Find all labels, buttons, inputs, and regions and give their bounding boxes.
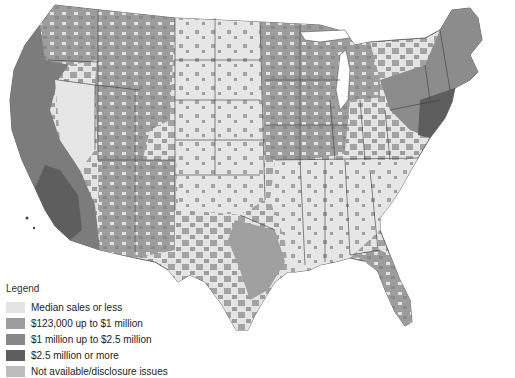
legend-swatch xyxy=(6,350,25,361)
island-marker xyxy=(33,227,35,229)
island-marker xyxy=(26,217,29,220)
legend-label: Not available/disclosure issues xyxy=(31,366,168,377)
legend-swatch xyxy=(6,366,25,377)
legend-swatch xyxy=(6,302,25,313)
region-southwest xyxy=(98,160,175,258)
legend-item: $123,000 up to $1 million xyxy=(6,315,206,331)
legend-item: $1 million up to $2.5 million xyxy=(6,331,206,347)
legend-swatch xyxy=(6,318,25,329)
legend-label: Median sales or less xyxy=(31,302,122,313)
region-plains xyxy=(175,18,265,215)
legend-swatch xyxy=(6,334,25,345)
region-northwest xyxy=(40,5,100,65)
legend-label: $1 million up to $2.5 million xyxy=(31,334,152,345)
legend-item: Median sales or less xyxy=(6,299,206,315)
map-legend: Legend Median sales or less $123,000 up … xyxy=(6,283,206,378)
legend-item: Not available/disclosure issues xyxy=(6,363,206,378)
legend-label: $123,000 up to $1 million xyxy=(31,318,143,329)
region-southeast xyxy=(270,158,418,272)
legend-title: Legend xyxy=(6,283,206,294)
legend-label: $2.5 million or more xyxy=(31,350,119,361)
legend-item: $2.5 million or more xyxy=(6,347,206,363)
